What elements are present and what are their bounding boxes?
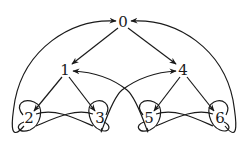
edge-4-5 xyxy=(154,77,180,111)
node-6: 6 xyxy=(215,111,225,126)
node-1: 1 xyxy=(60,63,70,78)
node-3: 3 xyxy=(95,111,105,126)
graph-diagram: 0 1 4 2 3 5 6 xyxy=(0,0,248,150)
edge-0-1 xyxy=(72,28,118,64)
edge-0-4 xyxy=(128,28,176,64)
edge-5-6 xyxy=(156,112,213,126)
node-2: 2 xyxy=(24,111,34,126)
edge-1-3 xyxy=(69,77,95,111)
edge-1-2 xyxy=(34,77,62,111)
node-0: 0 xyxy=(118,15,128,30)
node-4: 4 xyxy=(178,63,188,78)
edge-2-3 xyxy=(36,112,93,126)
node-5: 5 xyxy=(144,111,154,126)
